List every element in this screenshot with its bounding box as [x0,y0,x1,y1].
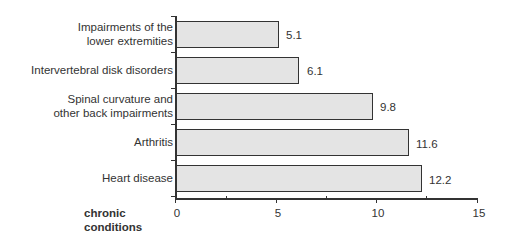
label-line: lower extremities [78,34,173,48]
bar-intervertebral [176,57,299,84]
x-tick [477,198,478,203]
y-tick [171,16,176,17]
y-tick [171,124,176,125]
value-label: 9.8 [380,100,396,114]
label-line: Heart disease [102,171,173,185]
y-tick [171,160,176,161]
x-tick-label: 5 [275,207,281,219]
y-tick [171,88,176,89]
x-tick [276,198,277,203]
category-label-spinal: Spinal curvature and other back impairme… [53,92,173,120]
x-tick-label: 10 [372,207,385,219]
value-label: 6.1 [307,64,323,78]
category-label-heart-disease: Heart disease [102,171,173,185]
label-line: chronic [84,206,142,220]
y-axis [175,16,177,199]
category-label-lower-extremities: Impairments of the lower extremities [78,20,173,48]
y-tick [171,52,176,53]
x-axis-label: chronic conditions [84,206,142,234]
value-label: 12.2 [429,173,451,187]
horizontal-bar-chart: Impairments of the lower extremities Int… [0,0,507,243]
x-tick [175,198,176,203]
label-line: Impairments of the [78,20,173,34]
x-tick [376,198,377,203]
bar-arthritis [176,129,409,156]
value-label: 11.6 [416,137,438,151]
label-line: Spinal curvature and [53,92,173,106]
x-tick-label: 15 [473,207,486,219]
value-label: 5.1 [286,28,302,42]
x-minor-tick [326,196,327,199]
label-line: Intervertebral disk disorders [31,63,173,77]
bar-heart-disease [176,165,422,192]
category-label-intervertebral: Intervertebral disk disorders [31,63,173,77]
bar-lower-extremities [176,21,279,48]
label-line: Arthritis [134,135,173,149]
x-tick-label: 0 [174,207,180,219]
x-minor-tick [226,196,227,199]
label-line: other back impairments [53,106,173,120]
bar-spinal [176,93,373,120]
category-label-arthritis: Arthritis [134,135,173,149]
x-minor-tick [426,196,427,199]
label-line: conditions [84,220,142,234]
